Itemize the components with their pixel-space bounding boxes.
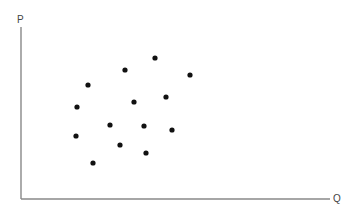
data-point bbox=[73, 133, 78, 138]
data-points bbox=[73, 55, 192, 165]
data-point bbox=[141, 123, 146, 128]
data-point bbox=[122, 67, 127, 72]
x-axis-label: Q bbox=[333, 194, 341, 204]
data-point bbox=[152, 55, 157, 60]
scatter-diagram: P Q bbox=[0, 0, 353, 208]
data-point bbox=[74, 104, 79, 109]
data-point bbox=[85, 82, 90, 87]
data-point bbox=[187, 72, 192, 77]
data-point bbox=[143, 150, 148, 155]
data-point bbox=[117, 142, 122, 147]
plot-area bbox=[0, 0, 353, 208]
data-point bbox=[163, 94, 168, 99]
data-point bbox=[131, 99, 136, 104]
data-point bbox=[107, 122, 112, 127]
y-axis-label: P bbox=[17, 15, 24, 25]
data-point bbox=[169, 127, 174, 132]
data-point bbox=[90, 160, 95, 165]
